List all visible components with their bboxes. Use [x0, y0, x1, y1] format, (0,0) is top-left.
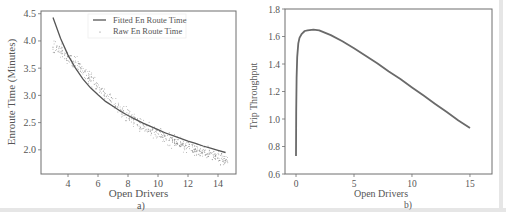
raw-point [165, 138, 166, 139]
raw-point [151, 133, 152, 134]
raw-point [143, 120, 144, 121]
raw-point [183, 145, 184, 146]
y-tick-label: 4.5 [24, 8, 37, 19]
raw-point [97, 86, 98, 87]
raw-point [224, 160, 225, 161]
raw-point [183, 141, 184, 142]
raw-point [186, 148, 187, 149]
raw-point [123, 106, 124, 107]
y-axis-label-a: Enroute Time (Minutes) [5, 39, 18, 146]
raw-point [215, 153, 216, 154]
raw-point [111, 97, 112, 98]
raw-point [62, 56, 63, 57]
raw-point [117, 106, 118, 107]
raw-point [215, 158, 216, 159]
raw-point [219, 158, 220, 159]
raw-point [61, 47, 62, 48]
raw-point [176, 145, 177, 146]
raw-point [219, 160, 220, 161]
legend-label-raw: Raw En Route Time [113, 26, 182, 36]
raw-point [214, 154, 215, 155]
raw-point [195, 148, 196, 149]
raw-point [155, 134, 156, 135]
raw-point [193, 152, 194, 153]
raw-point [71, 56, 72, 57]
raw-point [91, 80, 92, 81]
x-axis-label-b: Open Drivers [354, 188, 408, 199]
raw-point [121, 110, 122, 111]
raw-point [134, 123, 135, 124]
raw-point [150, 131, 151, 132]
raw-point [169, 140, 170, 141]
raw-point [188, 142, 189, 143]
raw-point [108, 96, 109, 97]
raw-point [105, 93, 106, 94]
raw-point [58, 51, 59, 52]
raw-point [111, 102, 112, 103]
raw-point [78, 63, 79, 64]
raw-point [93, 80, 94, 81]
raw-point [79, 63, 80, 64]
raw-point [209, 152, 210, 153]
raw-point [167, 135, 168, 136]
raw-point [81, 68, 82, 69]
raw-point [214, 151, 215, 152]
y-tick-label: 1.6 [268, 32, 280, 42]
raw-point [160, 132, 161, 133]
raw-point [196, 151, 197, 152]
x-tick-label: 10 [407, 179, 417, 189]
raw-point [165, 136, 166, 137]
raw-point [134, 117, 135, 118]
raw-point [77, 56, 78, 57]
raw-point [59, 52, 60, 53]
raw-point [53, 49, 54, 50]
raw-point [131, 122, 132, 123]
figure: 468101214 2.02.53.03.54.04.5 Open Driver… [0, 0, 506, 224]
raw-point [183, 152, 184, 153]
raw-point [141, 129, 142, 130]
raw-point [140, 129, 141, 130]
x-tick-label: 15 [465, 179, 475, 189]
raw-point [102, 88, 103, 89]
raw-point [167, 144, 168, 145]
raw-point [117, 107, 118, 108]
raw-point [106, 96, 107, 97]
raw-point [81, 72, 82, 73]
raw-point [162, 141, 163, 142]
raw-point [162, 137, 163, 138]
x-tick-label: 14 [213, 178, 223, 189]
raw-point [104, 89, 105, 90]
raw-point [62, 53, 63, 54]
raw-point [192, 152, 193, 153]
raw-point [99, 87, 100, 88]
raw-point [89, 74, 90, 75]
raw-point [221, 155, 222, 156]
raw-point [85, 78, 86, 79]
raw-point [189, 148, 190, 149]
raw-point [218, 161, 219, 162]
raw-point [80, 71, 81, 72]
raw-point [140, 118, 141, 119]
raw-point [137, 124, 138, 125]
raw-point [78, 61, 79, 62]
raw-point [62, 50, 63, 51]
raw-point [196, 155, 197, 156]
raw-point [172, 142, 173, 143]
raw-point [96, 85, 97, 86]
raw-point [154, 132, 155, 133]
raw-point [226, 156, 227, 157]
y-tick-label: 4.0 [24, 35, 37, 46]
raw-point [184, 148, 185, 149]
raw-point [205, 150, 206, 151]
raw-point [129, 120, 130, 121]
raw-point [97, 87, 98, 88]
raw-point [55, 41, 56, 42]
y-tick-label: 1.8 [268, 5, 280, 15]
raw-point [80, 64, 81, 65]
raw-point [79, 66, 80, 67]
y-tick-label: 2.5 [24, 117, 37, 128]
raw-point [121, 116, 122, 117]
raw-point [104, 93, 105, 94]
raw-point [54, 41, 55, 42]
raw-point [212, 152, 213, 153]
